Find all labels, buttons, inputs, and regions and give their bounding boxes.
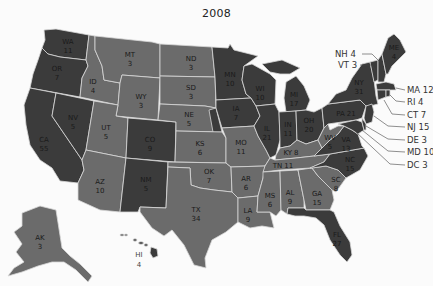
state-nj[interactable] — [364, 104, 374, 124]
callout-md: MD 10 — [407, 147, 433, 157]
callout-de: DE 3 — [407, 135, 427, 145]
leader-line — [374, 116, 405, 127]
label-wi: WI10 — [256, 85, 265, 102]
state-ri[interactable] — [386, 90, 390, 97]
label-ca: CA55 — [39, 136, 49, 153]
label-tx: TX34 — [190, 206, 201, 223]
callout-dc: DC 3 — [407, 160, 428, 170]
label-ga: GA15 — [312, 190, 322, 207]
leader-line — [396, 88, 405, 90]
label-hi: HI4 — [135, 251, 142, 269]
label-az: AZ10 — [95, 178, 105, 195]
label-ny: NY31 — [354, 79, 364, 96]
callout-vt: VT 3 — [338, 60, 357, 70]
callout-ma: MA 12 — [407, 85, 433, 95]
label-wa: WA11 — [62, 38, 74, 55]
state-fl[interactable] — [287, 208, 352, 262]
label-va: VA13 — [341, 136, 350, 153]
state-ak[interactable] — [8, 206, 92, 282]
callout-nj: NJ 15 — [407, 122, 429, 132]
label-oh: OH20 — [304, 117, 315, 134]
label-ky: KY8 — [283, 149, 298, 157]
label-fl: FL27 — [333, 231, 342, 248]
leader-line — [390, 95, 405, 102]
callout-ct: CT 7 — [407, 110, 426, 120]
label-mo: MO11 — [235, 139, 247, 156]
us-electoral-map: WA11 OR7 CA55 NV5 ID4 MT3 WY3 UT5 AZ10 C… — [0, 0, 433, 286]
callout-ri: RI 4 — [407, 97, 424, 107]
leader-line — [384, 100, 405, 115]
leader-line — [362, 130, 405, 152]
label-in: IN11 — [284, 121, 293, 138]
state-ct[interactable] — [377, 90, 386, 100]
state-ma[interactable] — [376, 82, 396, 90]
state-sd[interactable] — [160, 76, 216, 108]
label-nc: NC15 — [345, 156, 355, 173]
label-mn: MN10 — [224, 71, 235, 88]
callout-nh: NH 4 — [335, 49, 356, 59]
label-mi: MI17 — [290, 91, 299, 108]
label-pa: PA21 — [336, 110, 355, 118]
